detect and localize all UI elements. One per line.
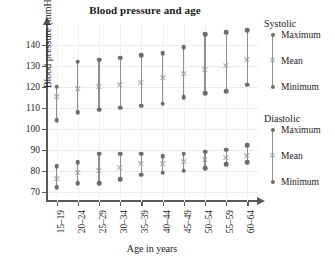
- data-point: [182, 45, 187, 50]
- y-axis-title: Blood pressure (mmHg): [42, 0, 53, 115]
- x-axis-tick-label: 55–59: [225, 210, 235, 233]
- data-point: [76, 110, 81, 115]
- data-point: [203, 91, 208, 96]
- data-point: [245, 28, 250, 33]
- data-point-mean: ✕: [201, 66, 209, 75]
- legend-label: Mean: [281, 151, 303, 161]
- legend-mean-marker: ✕: [269, 57, 276, 65]
- y-axis-tick-label: 90: [31, 144, 41, 154]
- data-point-mean: ✕: [159, 74, 167, 83]
- data-point: [97, 57, 102, 62]
- x-axis-tick: [184, 202, 185, 206]
- plot-area: 70809010011012013014015–1920–2425–2930–3…: [46, 24, 258, 202]
- data-point: [245, 82, 250, 87]
- data-point: [97, 108, 102, 113]
- legend-dot-marker: [271, 128, 275, 132]
- data-point-mean: ✕: [95, 83, 103, 92]
- data-point-mean: ✕: [53, 175, 61, 184]
- data-point-mean: ✕: [116, 164, 124, 173]
- data-point: [118, 177, 123, 182]
- data-point-mean: ✕: [222, 154, 230, 163]
- chart-root: Blood pressure and age 70809010011012013…: [0, 0, 335, 263]
- data-point: [118, 152, 123, 157]
- legend-dot-marker: [271, 33, 275, 37]
- legend-label: Maximum: [281, 125, 321, 135]
- legend-dot-marker: [271, 180, 275, 184]
- data-point-mean: ✕: [137, 78, 145, 87]
- x-axis-tick: [57, 202, 58, 206]
- data-point: [54, 85, 59, 90]
- data-point: [203, 32, 208, 37]
- data-point-mean: ✕: [53, 93, 61, 102]
- data-point: [182, 152, 187, 157]
- y-axis-tick-label: 70: [31, 186, 41, 196]
- data-point: [224, 30, 229, 35]
- data-point-mean: ✕: [159, 160, 167, 169]
- legend-dot-marker: [271, 85, 275, 89]
- y-axis-tick-label: 140: [26, 40, 40, 50]
- x-axis-tick: [226, 202, 227, 206]
- data-point-mean: ✕: [74, 85, 82, 94]
- data-point: [203, 166, 208, 171]
- x-axis-tick-label: 30–34: [119, 210, 129, 233]
- data-point: [160, 51, 165, 56]
- x-axis-tick-label: 25–29: [98, 210, 108, 233]
- x-axis-tick: [99, 202, 100, 206]
- legend-label: Minimum: [281, 177, 319, 187]
- data-point: [118, 105, 123, 110]
- range-line: [204, 34, 205, 93]
- legend-label: Minimum: [281, 82, 319, 92]
- y-axis-tick: [42, 192, 46, 193]
- y-axis-tick-label: 130: [26, 61, 40, 71]
- data-point-mean: ✕: [137, 160, 145, 169]
- data-point-mean: ✕: [180, 158, 188, 167]
- x-axis-arrow-icon: [257, 197, 265, 205]
- data-point: [97, 181, 102, 186]
- data-point-mean: ✕: [95, 166, 103, 175]
- y-axis-tick-label: 110: [26, 103, 40, 113]
- data-point-mean: ✕: [222, 62, 230, 71]
- x-axis-tick: [163, 202, 164, 206]
- y-axis-tick-label: 100: [26, 124, 40, 134]
- data-point-mean: ✕: [243, 152, 251, 161]
- data-point: [54, 118, 59, 123]
- x-axis-tick-label: 50–54: [204, 210, 214, 233]
- x-axis-tick: [247, 202, 248, 206]
- data-point: [224, 89, 229, 94]
- x-axis-title: Age in years: [46, 243, 258, 254]
- x-axis-tick-label: 35–39: [140, 210, 150, 233]
- data-point-mean: ✕: [180, 70, 188, 79]
- data-point: [97, 152, 102, 157]
- x-axis-tick: [141, 202, 142, 206]
- data-point-mean: ✕: [201, 156, 209, 165]
- legend-diastolic-title: Diastolic: [264, 113, 300, 124]
- x-axis-tick-label: 40–44: [162, 210, 172, 233]
- data-point-mean: ✕: [74, 168, 82, 177]
- data-point: [203, 149, 208, 154]
- x-axis-tick-label: 45–49: [183, 210, 193, 233]
- x-axis-tick: [120, 202, 121, 206]
- y-axis-tick: [42, 171, 46, 172]
- legend-mean-marker: ✕: [269, 152, 276, 160]
- data-point-mean: ✕: [116, 80, 124, 89]
- x-axis-tick-label: 60–64: [246, 210, 256, 233]
- data-point: [76, 59, 81, 64]
- data-point: [54, 185, 59, 190]
- data-point: [139, 152, 144, 157]
- data-point: [139, 53, 144, 58]
- x-axis-tick: [78, 202, 79, 206]
- data-point: [160, 170, 165, 175]
- legend-systolic-title: Systolic: [264, 18, 296, 29]
- y-axis-tick-label: 120: [26, 82, 40, 92]
- data-point: [182, 168, 187, 173]
- y-axis-tick: [42, 129, 46, 130]
- x-axis-tick-label: 20–24: [77, 210, 87, 233]
- data-point: [118, 55, 123, 60]
- y-axis-tick-label: 80: [31, 165, 41, 175]
- data-point: [76, 160, 81, 165]
- data-point: [160, 154, 165, 159]
- data-point: [54, 164, 59, 169]
- data-point: [224, 147, 229, 152]
- data-point: [182, 95, 187, 100]
- x-axis-tick: [205, 202, 206, 206]
